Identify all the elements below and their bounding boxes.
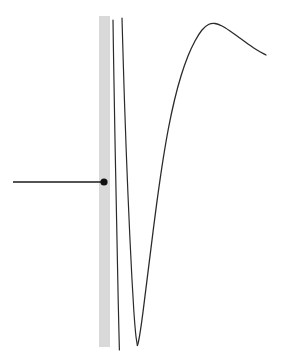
pointer-dot-marker	[100, 178, 107, 185]
figure-canvas	[0, 0, 286, 362]
plot-area	[0, 0, 286, 362]
